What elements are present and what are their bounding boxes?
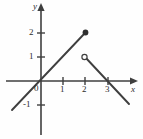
closed-endpoint-marker (83, 30, 89, 36)
coordinate-plane-svg (0, 0, 143, 139)
tick-label-x2: 2 (82, 85, 87, 94)
y-axis-label: y (33, 2, 37, 11)
tick-label-y-minus1: -1 (23, 100, 31, 109)
tick-label-x1: 1 (60, 85, 65, 94)
y-axis (37, 3, 44, 135)
x-axis (6, 77, 138, 84)
graph-figure: y x 0 1 2 3 1 2 -1 (0, 0, 143, 139)
tick-label-y2: 2 (29, 28, 34, 37)
tick-label-y1: 1 (29, 52, 34, 61)
open-endpoint-marker (82, 54, 87, 59)
tick-label-origin: 0 (34, 84, 39, 93)
x-axis-label: x (131, 85, 135, 94)
tick-label-x3: 3 (105, 85, 110, 94)
